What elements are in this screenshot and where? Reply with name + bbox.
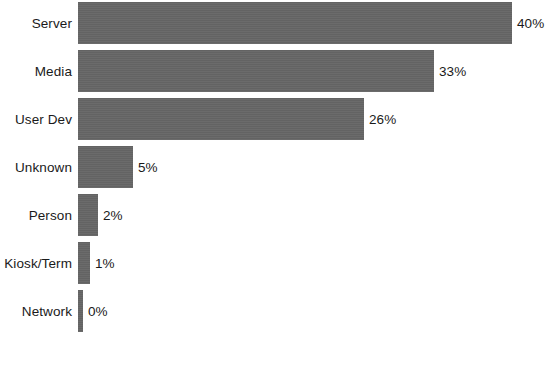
bar-row: Server 40% (0, 2, 549, 44)
value-label: 5% (138, 160, 158, 175)
bar-track: 5% (78, 146, 549, 188)
bar-network[interactable] (78, 290, 83, 332)
category-label: Unknown (0, 160, 72, 175)
value-label: 40% (517, 16, 544, 31)
bar-row: Person 2% (0, 194, 549, 236)
footer-caption (4, 373, 304, 379)
bar-kiosk-term[interactable] (78, 242, 90, 284)
bar-row: Network 0% (0, 290, 549, 332)
bar-track: 2% (78, 194, 549, 236)
bar-row: Media 33% (0, 50, 549, 92)
value-label: 33% (439, 64, 466, 79)
category-label: Person (0, 208, 72, 223)
bar-chart: Server 40% Media 33% User Dev 26% Unknow… (0, 0, 549, 379)
bar-user-dev[interactable] (78, 98, 364, 140)
bar-track: 26% (78, 98, 549, 140)
bar-media[interactable] (78, 50, 434, 92)
bar-row: Unknown 5% (0, 146, 549, 188)
value-label: 2% (103, 208, 123, 223)
bar-track: 0% (78, 290, 549, 332)
bar-row: Kiosk/Term 1% (0, 242, 549, 284)
value-label: 26% (369, 112, 396, 127)
bar-track: 40% (78, 2, 549, 44)
bar-server[interactable] (78, 2, 512, 44)
bar-track: 1% (78, 242, 549, 284)
category-label: User Dev (0, 112, 72, 127)
bar-unknown[interactable] (78, 146, 133, 188)
category-label: Server (0, 16, 72, 31)
bar-person[interactable] (78, 194, 98, 236)
bar-row: User Dev 26% (0, 98, 549, 140)
value-label: 0% (88, 304, 108, 319)
value-label: 1% (95, 256, 115, 271)
category-label: Network (0, 304, 72, 319)
bar-track: 33% (78, 50, 549, 92)
category-label: Kiosk/Term (0, 256, 72, 271)
category-label: Media (0, 64, 72, 79)
